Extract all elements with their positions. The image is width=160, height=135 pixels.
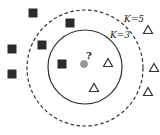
- k5-label: K=5: [123, 14, 144, 24]
- triangle-icon: [144, 88, 153, 96]
- square-icon: [58, 60, 67, 69]
- square-icon: [29, 9, 38, 18]
- square-icon: [66, 19, 75, 28]
- knn-diagram: K=5 K=3 ?: [0, 0, 160, 135]
- triangle-icon: [104, 59, 113, 67]
- triangle-icon: [90, 84, 99, 92]
- square-icon: [8, 45, 17, 54]
- query-point-icon: [81, 61, 88, 68]
- square-icon: [8, 70, 17, 79]
- k5-dashed-circle: [27, 10, 143, 126]
- query-label: ?: [86, 50, 92, 61]
- square-icon: [38, 41, 47, 50]
- k3-label: K=3: [109, 30, 130, 40]
- triangle-icon: [144, 26, 153, 34]
- triangle-icon: [150, 64, 159, 72]
